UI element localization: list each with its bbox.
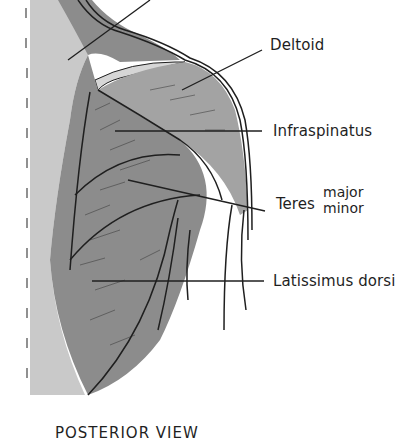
- view-caption: POSTERIOR VIEW: [55, 424, 199, 438]
- label-teres-major: major: [323, 185, 363, 200]
- label-latissimus-dorsi: Latissimus dorsi: [273, 272, 396, 290]
- skin-edge-marks: [26, 8, 27, 378]
- shoulder-anatomy-diagram: Deltoid Infraspinatus Teres major minor …: [0, 0, 420, 438]
- label-teres: Teres: [276, 195, 315, 213]
- muscle-illustration: [0, 0, 420, 438]
- label-teres-minor: minor: [323, 201, 364, 216]
- label-infraspinatus: Infraspinatus: [273, 122, 372, 140]
- label-deltoid: Deltoid: [270, 36, 324, 54]
